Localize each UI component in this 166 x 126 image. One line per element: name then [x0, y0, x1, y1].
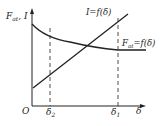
y-axis-arrow-icon [30, 8, 34, 14]
y-axis-label: Fat, I [5, 11, 28, 22]
tick-delta1: δ1 [111, 107, 120, 118]
diagram: Fat, I O δ δ2 δ1 I=f(δ) Fat=f(δ) [0, 0, 166, 126]
tick-delta2: δ2 [46, 107, 55, 118]
curve-F-label: Fat=f(δ) [121, 38, 155, 49]
curve-I-label: I=f(δ) [85, 7, 111, 17]
curve-I [33, 14, 128, 88]
origin-label: O [22, 106, 30, 116]
x-axis-label: δ [136, 106, 141, 116]
